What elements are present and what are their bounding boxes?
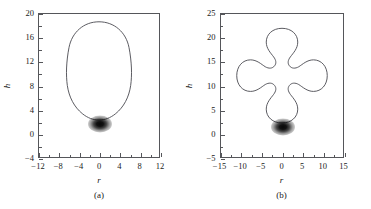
x-tick-label: 0 (97, 162, 101, 171)
y-tick-major (221, 159, 225, 160)
x-tick-minor (70, 155, 71, 158)
x-tick-major (221, 153, 222, 157)
panel-caption: (b) (276, 191, 287, 200)
x-tick-label: −4 (74, 162, 83, 171)
y-tick-minor (221, 50, 224, 51)
y-tick-minor (39, 74, 42, 75)
x-tick-minor (272, 155, 273, 158)
x-tick-label: 10 (319, 162, 328, 171)
y-tick-major (39, 62, 43, 63)
y-axis-title: h (184, 83, 193, 88)
x-tick-minor (49, 155, 50, 158)
x-tick-label: −5 (256, 162, 265, 171)
y-tick-label: −4 (14, 154, 34, 163)
x-tick-major (161, 153, 162, 157)
x-tick-minor (293, 155, 294, 158)
x-tick-major (80, 153, 81, 157)
x-tick-major (262, 153, 263, 157)
y-tick-major (221, 111, 225, 112)
x-tick-major (120, 153, 121, 157)
dark-blob-a (88, 116, 112, 133)
x-tick-minor (131, 155, 132, 158)
y-tick-label: −5 (196, 154, 216, 163)
y-tick-minor (39, 26, 42, 27)
y-tick-minor (39, 50, 42, 51)
x-axis-title: r (280, 176, 284, 185)
x-tick-major (141, 153, 142, 157)
y-tick-label: 20 (14, 9, 34, 18)
plot-frame-b (220, 13, 344, 158)
y-tick-label: 8 (14, 81, 34, 90)
x-tick-minor (90, 155, 91, 158)
y-tick-label: 4 (14, 105, 34, 114)
x-tick-label: −8 (54, 162, 63, 171)
y-tick-major (221, 62, 225, 63)
x-tick-label: 15 (339, 162, 348, 171)
y-tick-minor (221, 99, 224, 100)
x-tick-minor (151, 155, 152, 158)
plot-frame-a (38, 13, 160, 158)
x-tick-major (283, 153, 284, 157)
x-tick-label: 8 (138, 162, 142, 171)
x-tick-label: 4 (117, 162, 121, 171)
x-tick-major (303, 153, 304, 157)
y-tick-major (221, 14, 225, 15)
panel-b: −15−10−5051015−50510152025rh(b) (186, 0, 371, 209)
dark-blob-b (271, 119, 295, 136)
x-tick-label: 12 (156, 162, 165, 171)
y-tick-major (221, 38, 225, 39)
x-tick-label: 5 (300, 162, 304, 171)
y-tick-minor (221, 74, 224, 75)
y-tick-label: 5 (196, 105, 216, 114)
panel-caption: (a) (94, 191, 104, 200)
x-tick-label: −15 (213, 162, 226, 171)
y-tick-minor (39, 123, 42, 124)
y-axis-title: h (3, 83, 12, 88)
x-tick-label: −10 (234, 162, 247, 171)
y-tick-major (39, 111, 43, 112)
x-tick-minor (314, 155, 315, 158)
x-tick-major (345, 153, 346, 157)
x-tick-label: 0 (279, 162, 283, 171)
y-tick-label: 20 (196, 33, 216, 42)
y-tick-label: 0 (196, 130, 216, 139)
y-tick-minor (39, 99, 42, 100)
curve-a (39, 14, 159, 157)
y-tick-major (221, 87, 225, 88)
curve-b (221, 14, 343, 157)
y-tick-major (39, 159, 43, 160)
y-tick-label: 0 (14, 130, 34, 139)
y-tick-major (39, 87, 43, 88)
x-tick-major (324, 153, 325, 157)
x-axis-title: r (97, 176, 101, 185)
x-tick-minor (334, 155, 335, 158)
x-tick-major (39, 153, 40, 157)
x-tick-major (241, 153, 242, 157)
panel-a: −12−8−404812−4048121620rh(a) (0, 0, 186, 209)
y-tick-label: 15 (196, 57, 216, 66)
y-tick-major (39, 38, 43, 39)
y-tick-label: 25 (196, 9, 216, 18)
y-tick-label: 16 (14, 33, 34, 42)
x-tick-minor (110, 155, 111, 158)
y-tick-major (221, 135, 225, 136)
figure-container: −12−8−404812−4048121620rh(a) −15−10−5051… (0, 0, 371, 209)
y-tick-minor (39, 147, 42, 148)
x-tick-minor (252, 155, 253, 158)
y-tick-minor (221, 26, 224, 27)
y-tick-label: 12 (14, 57, 34, 66)
x-tick-label: −12 (31, 162, 44, 171)
y-tick-minor (221, 147, 224, 148)
x-tick-major (100, 153, 101, 157)
y-tick-label: 10 (196, 81, 216, 90)
y-tick-major (39, 135, 43, 136)
y-tick-minor (221, 123, 224, 124)
x-tick-minor (231, 155, 232, 158)
y-tick-major (39, 14, 43, 15)
x-tick-major (59, 153, 60, 157)
